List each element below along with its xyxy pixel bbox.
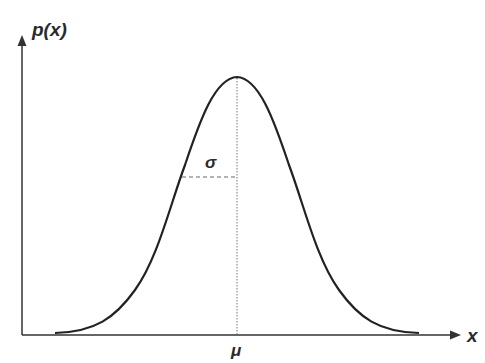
gaussian-diagram: p(x) x μ σ [0, 0, 485, 363]
x-axis-label: x [466, 325, 479, 346]
sigma-label: σ [205, 153, 217, 172]
y-axis-label: p(x) [31, 19, 67, 40]
x-axis-arrow-icon [450, 331, 461, 340]
y-axis-arrow-icon [18, 35, 27, 46]
mean-label: μ [230, 341, 242, 360]
